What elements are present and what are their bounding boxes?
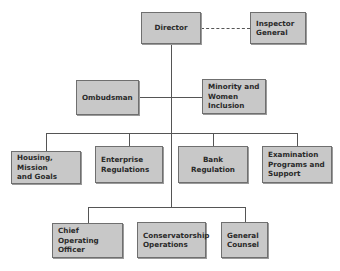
- enterprise-drop: [129, 133, 130, 146]
- ombudsman-box: Ombudsman: [76, 80, 139, 115]
- enterprise-regulations-label: Enterprise Regulations: [101, 155, 149, 174]
- general-counsel-label: General Counsel: [227, 231, 259, 250]
- ombudsman-label: Ombudsman: [82, 93, 133, 102]
- enterprise-regulations-box: Enterprise Regulations: [95, 146, 163, 183]
- counsel-drop: [245, 207, 246, 222]
- main-vertical-connector: [171, 43, 172, 207]
- staff-horizontal-connector: [139, 97, 202, 98]
- inspector-general-label: Inspector General: [256, 19, 294, 38]
- director-box: Director: [141, 12, 201, 44]
- housing-mission-goals-box: Housing, Mission and Goals: [11, 151, 81, 184]
- housing-drop: [46, 133, 47, 151]
- bank-regulation-label: Bank Regulation: [184, 155, 242, 174]
- examination-drop: [297, 133, 298, 146]
- housing-mission-goals-label: Housing, Mission and Goals: [17, 153, 75, 181]
- director-label: Director: [154, 23, 187, 32]
- chief-operating-officer-label: Chief Operating Officer: [58, 226, 117, 254]
- operations-horizontal-connector: [88, 207, 245, 208]
- bank-drop: [213, 133, 214, 146]
- conservatorship-operations-label: Conservatorship Operations: [143, 231, 209, 250]
- general-counsel-box: General Counsel: [221, 222, 268, 258]
- division-horizontal-connector: [46, 133, 298, 134]
- dotted-connector-inspector: [201, 28, 250, 29]
- examination-programs-label: Examination Programs and Support: [268, 150, 325, 178]
- chief-operating-officer-box: Chief Operating Officer: [52, 223, 123, 258]
- coo-drop: [88, 207, 89, 223]
- inspector-general-box: Inspector General: [250, 12, 306, 44]
- bank-regulation-box: Bank Regulation: [178, 146, 248, 183]
- minority-women-inclusion-label: Minority and Women Inclusion: [208, 82, 259, 110]
- conservatorship-operations-box: Conservatorship Operations: [137, 222, 206, 258]
- examination-programs-box: Examination Programs and Support: [262, 146, 332, 183]
- minority-women-inclusion-box: Minority and Women Inclusion: [202, 79, 266, 114]
